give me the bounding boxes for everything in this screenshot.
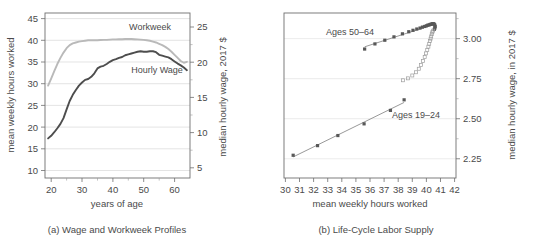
panel-b-xtick-label-39: 39 xyxy=(407,184,418,195)
panel-a-caption: (a) Wage and Workweek Profiles xyxy=(48,224,187,235)
panel-a-xaxis-title: years of age xyxy=(91,198,143,209)
panel-b-xtick-label-30: 30 xyxy=(280,184,291,195)
figure-container: 45 40 35 30 25 20 15 10 25 xyxy=(0,0,543,251)
panel-a-series-group xyxy=(48,39,187,138)
panel-a-wage-workweek-profiles: 45 40 35 30 25 20 15 10 25 xyxy=(0,0,272,251)
panel-a-ytick-25: 25 xyxy=(27,100,38,111)
data-point xyxy=(336,134,339,137)
panel-a-yaxis-title: mean weekly hours worked xyxy=(5,37,16,152)
panel-b-xtick-label-36: 36 xyxy=(365,184,376,195)
panel-b-scatter-points xyxy=(292,22,437,157)
panel-a-svg: 45 40 35 30 25 20 15 10 25 xyxy=(0,0,272,251)
data-point xyxy=(403,98,406,101)
panel-a-xtick-60: 60 xyxy=(169,184,180,195)
panel-b-xtick-label-33: 33 xyxy=(322,184,333,195)
panel-a-xtick-40: 40 xyxy=(108,184,119,195)
data-point xyxy=(423,56,426,59)
panel-b-yaxis-labels: 2.252.502.753.00 xyxy=(463,33,482,164)
panel-a-yaxis-left: 45 40 35 30 25 20 15 10 xyxy=(27,13,45,176)
panel-a-y2tick-15: 15 xyxy=(197,92,208,103)
data-point xyxy=(411,29,414,32)
data-point xyxy=(383,39,386,42)
panel-a-gridlines xyxy=(45,19,190,171)
data-point xyxy=(392,35,395,38)
panel-a-ytick-15: 15 xyxy=(27,143,38,154)
panel-b-xaxis-title: mean weekly hours worked xyxy=(312,198,427,209)
panel-b-xtick-label-38: 38 xyxy=(393,184,404,195)
panel-a-ytick-30: 30 xyxy=(27,78,38,89)
panel-a-y2tick-25: 25 xyxy=(197,21,208,32)
panel-b-svg: 30313233343536373839404142 2.252.502.753… xyxy=(272,0,543,251)
annotation-ages-50-64: Ages 50–64 xyxy=(326,27,374,37)
panel-a-xaxis: 20 30 40 50 60 xyxy=(46,178,180,195)
panel-a-y2tick-20: 20 xyxy=(197,57,208,68)
data-point xyxy=(363,47,366,50)
panel-b-ytick-label-2.25: 2.25 xyxy=(463,153,482,164)
panel-a-xtick-20: 20 xyxy=(46,184,57,195)
panel-a-xtick-50: 50 xyxy=(138,184,149,195)
data-point xyxy=(362,122,365,125)
data-point xyxy=(420,63,423,66)
panel-a-ytick-20: 20 xyxy=(27,122,38,133)
fit-line-2 xyxy=(293,102,404,156)
panel-a-yaxis-right: 25 20 15 10 5 xyxy=(190,21,208,173)
data-point xyxy=(373,42,376,45)
data-point xyxy=(414,71,417,74)
panel-b-yaxis-ticks xyxy=(456,19,460,159)
panel-b-ytick-label-3.00: 3.00 xyxy=(463,33,482,44)
panel-a-y2tick-5: 5 xyxy=(197,162,202,173)
panel-a-ytick-35: 35 xyxy=(27,56,38,67)
data-point xyxy=(417,67,420,70)
panel-b-ytick-label-2.50: 2.50 xyxy=(463,113,482,124)
panel-b-ytick-label-2.75: 2.75 xyxy=(463,73,482,84)
panel-a-y2tick-10: 10 xyxy=(197,127,208,138)
data-point xyxy=(316,144,319,147)
data-point xyxy=(292,154,295,157)
panel-b-fit-lines xyxy=(293,24,434,157)
annotation-ages-19-24: Ages 19–24 xyxy=(392,110,440,120)
annotation-hourly-wage: Hourly Wage xyxy=(131,65,183,75)
panel-b-xaxis-ticks xyxy=(285,178,454,182)
data-point xyxy=(401,32,404,35)
annotation-workweek: Workweek xyxy=(129,22,171,32)
panel-a-plot-frame xyxy=(45,13,190,178)
panel-b-xtick-label-37: 37 xyxy=(379,184,390,195)
panel-b-xtick-label-42: 42 xyxy=(449,184,460,195)
data-point xyxy=(402,79,405,82)
panel-b-xtick-label-31: 31 xyxy=(294,184,305,195)
panel-a-ytick-45: 45 xyxy=(27,13,38,24)
data-point xyxy=(425,52,428,55)
panel-b-xaxis-labels: 30313233343536373839404142 xyxy=(280,184,460,195)
panel-b-gridlines xyxy=(284,39,456,159)
panel-a-xtick-30: 30 xyxy=(77,184,88,195)
data-point xyxy=(415,27,418,30)
panel-b-yaxis-title: median hourly wage, in 2017 $ xyxy=(506,30,517,160)
data-point xyxy=(426,48,429,51)
panel-b-xtick-label-40: 40 xyxy=(421,184,432,195)
data-point xyxy=(407,30,410,33)
data-point xyxy=(411,74,414,77)
data-point xyxy=(422,60,425,63)
panel-a-y2axis-title: median hourly wage, 2017 $ xyxy=(217,37,228,157)
panel-b-xtick-label-35: 35 xyxy=(351,184,362,195)
panel-b-xtick-label-34: 34 xyxy=(337,184,348,195)
panel-b-caption: (b) Life-Cycle Labor Supply xyxy=(318,224,433,235)
panel-b-life-cycle-labor-supply: 30313233343536373839404142 2.252.502.753… xyxy=(272,0,543,251)
panel-a-ytick-40: 40 xyxy=(27,35,38,46)
panel-a-ytick-10: 10 xyxy=(27,165,38,176)
panel-b-xtick-label-41: 41 xyxy=(435,184,446,195)
panel-b-xtick-label-32: 32 xyxy=(308,184,319,195)
